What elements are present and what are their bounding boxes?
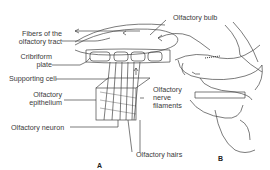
- panel-label-b: B: [218, 155, 223, 162]
- label-epithelium-line2: epithelium: [20, 99, 62, 107]
- label-olfactory-neuron: Olfactory neuron: [11, 124, 64, 132]
- label-olfactory-hairs: Olfactory hairs: [136, 151, 182, 159]
- label-fibers-line2: olfactory tract: [6, 38, 62, 46]
- olfactory-diagram-drawing: [0, 0, 270, 170]
- label-supporting-cell: Supporting cell: [9, 75, 57, 83]
- label-olfactory-bulb: Olfactory bulb: [173, 14, 217, 22]
- panel-label-a: A: [97, 162, 102, 169]
- label-nerve-line3: filaments: [153, 102, 182, 110]
- label-cribriform-line2: plate: [12, 61, 52, 69]
